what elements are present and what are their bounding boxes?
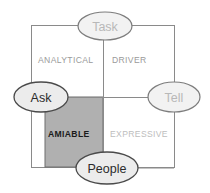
endpoint-node-ask: Ask <box>14 82 68 112</box>
endpoint-node-task: Task <box>78 12 132 40</box>
people-label: People <box>88 162 127 176</box>
quadrant-label-expressive: EXPRESSIVE <box>110 129 168 139</box>
social-styles-matrix-diagram: ANALYTICAL DRIVER AMIABLE EXPRESSIVE Tas… <box>0 0 210 193</box>
ask-label: Ask <box>31 91 53 105</box>
diagram-canvas: ANALYTICAL DRIVER AMIABLE EXPRESSIVE Tas… <box>0 0 210 193</box>
quadrant-label-amiable: AMIABLE <box>48 129 90 139</box>
tell-label: Tell <box>165 91 184 105</box>
endpoint-node-people: People <box>76 152 138 184</box>
quadrant-label-analytical: ANALYTICAL <box>38 55 93 65</box>
task-label: Task <box>92 20 118 34</box>
endpoint-node-tell: Tell <box>148 82 200 112</box>
quadrant-label-driver: DRIVER <box>112 55 147 65</box>
